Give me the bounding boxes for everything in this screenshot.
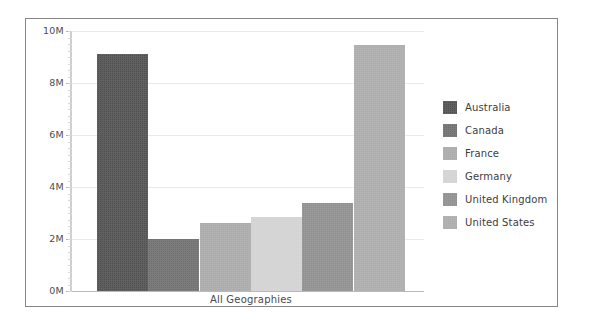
legend-swatch-icon bbox=[443, 124, 457, 137]
gridline bbox=[72, 135, 424, 136]
y-axis-tick-label: 8M bbox=[22, 77, 64, 88]
bar-chart: 10M8M6M4M2M0M All Geographies AustraliaC… bbox=[0, 0, 596, 322]
legend-item-france[interactable]: France bbox=[443, 142, 547, 165]
gridline bbox=[72, 239, 424, 240]
legend-swatch-icon bbox=[443, 216, 457, 229]
y-axis-tick-label: 4M bbox=[22, 181, 64, 192]
legend-label: France bbox=[465, 148, 499, 159]
legend-label: United Kingdom bbox=[465, 194, 547, 205]
legend-swatch-icon bbox=[443, 170, 457, 183]
y-axis-tick-label: 2M bbox=[22, 233, 64, 244]
legend-swatch-icon bbox=[443, 101, 457, 114]
legend-swatch-icon bbox=[443, 193, 457, 206]
legend-item-australia[interactable]: Australia bbox=[443, 96, 547, 119]
legend-label: United States bbox=[465, 217, 535, 228]
y-axis-tick-label: 0M bbox=[22, 285, 64, 296]
legend-item-united-states[interactable]: United States bbox=[443, 211, 547, 234]
legend-item-canada[interactable]: Canada bbox=[443, 119, 547, 142]
gridline bbox=[72, 291, 424, 292]
legend-label: Germany bbox=[465, 171, 512, 182]
legend-swatch-icon bbox=[443, 147, 457, 160]
gridline bbox=[72, 187, 424, 188]
legend-item-germany[interactable]: Germany bbox=[443, 165, 547, 188]
legend-label: Australia bbox=[465, 102, 511, 113]
x-axis-label: All Geographies bbox=[97, 294, 405, 305]
legend-item-united-kingdom[interactable]: United Kingdom bbox=[443, 188, 547, 211]
plot-area bbox=[72, 31, 424, 291]
chart-legend: AustraliaCanadaFranceGermanyUnited Kingd… bbox=[443, 96, 547, 234]
gridline bbox=[72, 31, 424, 32]
gridline bbox=[72, 83, 424, 84]
y-axis-tick-label: 6M bbox=[22, 129, 64, 140]
y-axis-tick-label: 10M bbox=[22, 25, 64, 36]
legend-label: Canada bbox=[465, 125, 504, 136]
